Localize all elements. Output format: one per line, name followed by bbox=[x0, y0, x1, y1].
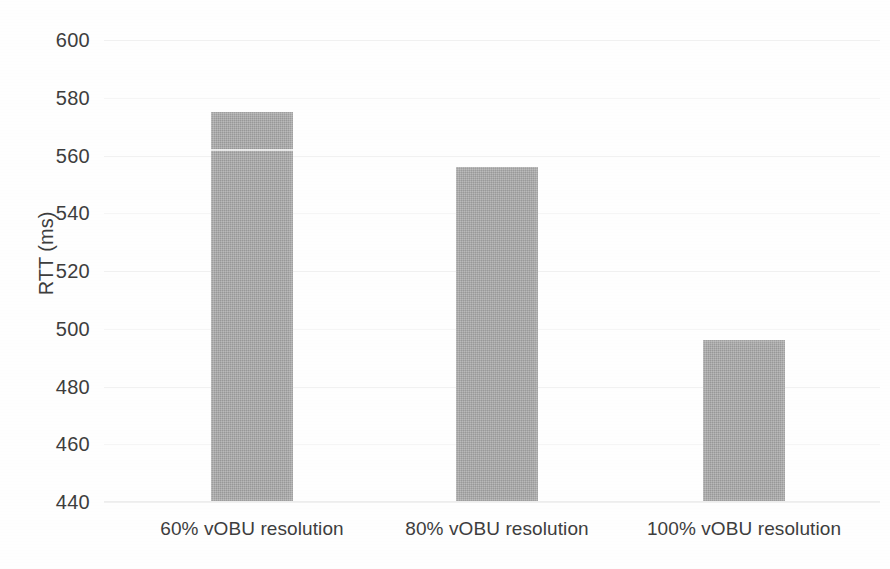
y-tick-label-440: 440 bbox=[34, 491, 90, 514]
scan-artifact-line bbox=[211, 149, 293, 151]
x-axis-tick-labels: 60% vOBU resolution80% vOBU resolution10… bbox=[104, 518, 880, 548]
y-tick-label-580: 580 bbox=[34, 86, 90, 109]
y-axis-tick-labels: 600580560540520500480460440 bbox=[20, 40, 90, 502]
plot-area bbox=[104, 40, 880, 502]
bar-0[interactable] bbox=[211, 112, 293, 502]
x-tick-label-0: 60% vOBU resolution bbox=[160, 518, 344, 540]
bar-chart: RTT (ms) 600580560540520500480460440 60%… bbox=[0, 0, 890, 569]
y-tick-label-600: 600 bbox=[34, 29, 90, 52]
y-tick-label-500: 500 bbox=[34, 317, 90, 340]
y-tick-label-520: 520 bbox=[34, 260, 90, 283]
x-tick-label-2: 100% vOBU resolution bbox=[647, 518, 841, 540]
gridline-440 bbox=[104, 502, 880, 503]
bar-1[interactable] bbox=[456, 167, 538, 502]
y-tick-label-460: 460 bbox=[34, 433, 90, 456]
gridline-600 bbox=[104, 40, 880, 41]
y-tick-label-480: 480 bbox=[34, 375, 90, 398]
y-tick-label-540: 540 bbox=[34, 202, 90, 225]
x-tick-label-1: 80% vOBU resolution bbox=[405, 518, 589, 540]
bar-2[interactable] bbox=[703, 340, 785, 502]
gridline-580 bbox=[104, 98, 880, 99]
x-axis-baseline bbox=[104, 501, 880, 502]
y-tick-label-560: 560 bbox=[34, 144, 90, 167]
